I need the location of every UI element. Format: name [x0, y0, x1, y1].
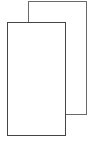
copy-icon: [0, 0, 102, 143]
copy-icon-front-page: [7, 22, 66, 136]
